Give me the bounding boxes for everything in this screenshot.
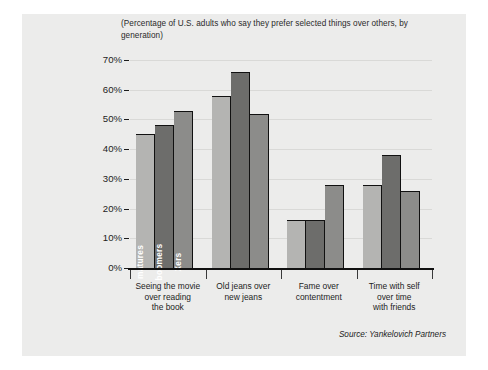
bar-boomers-1[interactable] (231, 72, 250, 268)
x-axis-category-label: Time with selfover timewith friends (351, 281, 439, 313)
category-separator (206, 270, 207, 279)
bar-boomers-0[interactable]: boomers (155, 125, 174, 268)
bar-boomers-2[interactable] (306, 220, 325, 268)
category-separator (357, 270, 358, 279)
x-axis-category-label: Old jeans overnew jeans (200, 281, 288, 302)
x-axis-category-label: Seeing the movieover readingthe book (124, 281, 212, 313)
x-axis-category-line: Seeing the movie (124, 281, 212, 292)
y-axis-labels: 70%60%50%40%30%20%10%0% (76, 60, 122, 268)
y-axis-tick-mark (124, 179, 129, 180)
x-axis-category-line: the book (124, 302, 212, 313)
y-axis-tick-label: 60% (76, 84, 122, 95)
series-label-matures: matures (135, 245, 145, 279)
chart-title-line-2: generation) (121, 30, 421, 42)
y-axis-tick-mark (124, 119, 129, 120)
y-axis-tick-label: 10% (76, 232, 122, 243)
bar-Xers-3[interactable] (401, 191, 420, 268)
y-axis-tick-label: 30% (76, 173, 122, 184)
y-axis-tick-mark (124, 60, 129, 61)
source-note: Source: Yankelovich Partners (339, 330, 446, 339)
y-axis-tick-mark (124, 149, 129, 150)
bar-group (281, 60, 357, 268)
bar-group (206, 60, 282, 268)
bar-matures-1[interactable] (212, 96, 231, 268)
x-axis-category-line: Time with self (351, 281, 439, 292)
x-axis-category-line: Fame over (275, 281, 363, 292)
x-axis-category-line: new jeans (200, 292, 288, 303)
y-axis-tick-label: 70% (76, 54, 122, 65)
x-axis-category-line: with friends (351, 302, 439, 313)
bar-matures-0[interactable]: matures (136, 134, 155, 268)
y-axis-tick-label: 0% (76, 262, 122, 273)
y-axis-tick-mark (124, 209, 129, 210)
x-axis-category-line: over reading (124, 292, 212, 303)
x-axis-category-line: over time (351, 292, 439, 303)
chart-title-line-1: (Percentage of U.S. adults who say they … (121, 18, 421, 30)
category-separator-end (130, 270, 131, 279)
x-axis-category-label: Fame overcontentment (275, 281, 363, 302)
x-axis-category-line: Old jeans over (200, 281, 288, 292)
series-label-boomers: boomers (154, 244, 164, 281)
plot-area: maturesboomersXers (130, 60, 432, 268)
y-axis-tick-mark (124, 238, 129, 239)
bar-boomers-3[interactable] (382, 155, 401, 268)
y-axis-tick-label: 40% (76, 143, 122, 154)
chart-title: (Percentage of U.S. adults who say they … (121, 18, 421, 41)
bar-matures-3[interactable] (363, 185, 382, 268)
bar-Xers-0[interactable]: Xers (174, 111, 193, 268)
category-separator-end (432, 270, 433, 279)
bar-Xers-1[interactable] (250, 114, 269, 269)
category-separator (281, 270, 282, 279)
y-axis-tick-label: 50% (76, 113, 122, 124)
bar-matures-2[interactable] (287, 220, 306, 268)
chart-figure: (Percentage of U.S. adults who say they … (0, 0, 488, 370)
bar-group: maturesboomersXers (130, 60, 206, 268)
y-axis-tick-label: 20% (76, 203, 122, 214)
x-axis-category-line: contentment (275, 292, 363, 303)
y-axis-tick-mark (124, 90, 129, 91)
bar-group (357, 60, 433, 268)
bar-Xers-2[interactable] (325, 185, 344, 268)
